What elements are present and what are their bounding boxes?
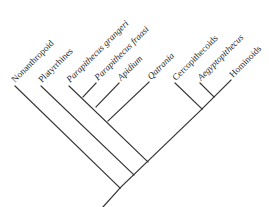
- spine-branch: [120, 109, 202, 188]
- branch-aegyptopithecus: [200, 83, 214, 97]
- root-branch: [103, 188, 120, 207]
- branch-apidium: [96, 83, 119, 107]
- branch-hominoids: [202, 80, 231, 109]
- cladogram-diagram: Nonanthropoid Platyrrhines Parapithecus …: [0, 0, 269, 207]
- branch-parapithecus-fraasi: [83, 83, 96, 97]
- branch-platyrrhines: [41, 86, 134, 175]
- branch-cercopithecoids: [175, 83, 202, 109]
- branch-nonanthropoid: [15, 86, 120, 188]
